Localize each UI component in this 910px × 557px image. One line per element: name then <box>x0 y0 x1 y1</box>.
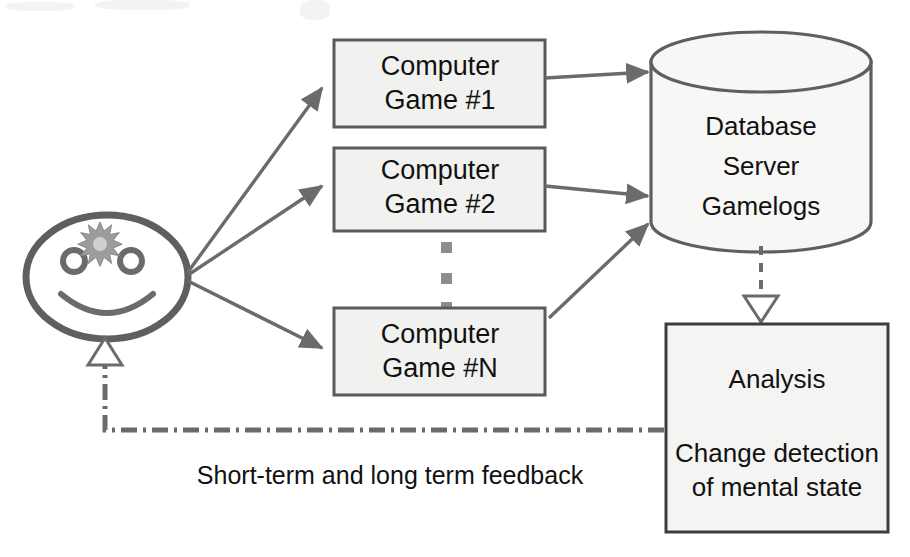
feedback-label: Short-term and long term feedback <box>197 461 584 489</box>
arrow-game-2-to-database <box>545 186 648 196</box>
smiley-face-user[interactable] <box>26 215 188 339</box>
arrow-user-to-game-2 <box>188 186 322 275</box>
computer-game-n-label-line2: Game #N <box>382 353 498 383</box>
computer-game-1-node[interactable]: Computer Game #1 <box>334 40 545 127</box>
database-server-node[interactable]: Database Server Gamelogs <box>651 32 871 252</box>
computer-game-1-label-line1: Computer <box>381 51 500 81</box>
database-label-line1: Database <box>705 111 816 141</box>
analysis-body-line1: Change detection <box>675 438 879 468</box>
computer-game-2-label-line1: Computer <box>381 155 500 185</box>
database-label-line3: Gamelogs <box>702 191 821 221</box>
database-label-line2: Server <box>723 151 800 181</box>
computer-game-n-node[interactable]: Computer Game #N <box>334 308 545 395</box>
arrow-game-1-to-database <box>545 72 648 78</box>
diagram-graphics: Computer Game #1 Computer Game #2 Comput… <box>0 0 910 557</box>
database-cylinder-top <box>651 32 871 92</box>
computer-game-2-label-line2: Game #2 <box>384 189 495 219</box>
analysis-title: Analysis <box>729 364 826 394</box>
analysis-node[interactable]: Analysis Change detection of mental stat… <box>666 324 888 532</box>
vertical-ellipsis-icon <box>441 242 452 313</box>
analysis-body-line2: of mental state <box>692 472 863 502</box>
computer-game-2-node[interactable]: Computer Game #2 <box>334 148 545 231</box>
arrow-user-to-game-1 <box>188 88 322 272</box>
computer-game-n-label-line1: Computer <box>381 319 500 349</box>
diagram-canvas: Computer Game #1 Computer Game #2 Comput… <box>0 0 910 557</box>
right-eye-icon <box>120 250 142 272</box>
db-to-analysis-hollow-arrow-icon <box>744 296 778 322</box>
left-eye-icon <box>63 250 85 272</box>
computer-game-1-label-line2: Game #1 <box>384 85 495 115</box>
arrow-game-n-to-database <box>549 224 648 318</box>
db-to-analysis-link <box>744 246 778 322</box>
arrow-user-to-game-n <box>188 281 322 348</box>
